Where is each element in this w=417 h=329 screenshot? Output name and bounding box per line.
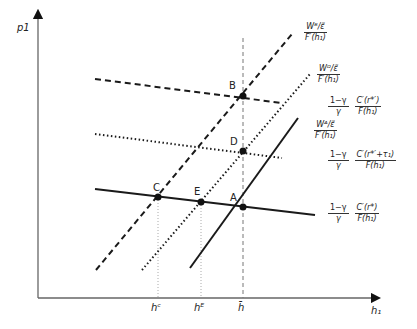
wage-curve-a: [190, 118, 298, 268]
cost-curve-b: [95, 79, 282, 103]
x-axis-label: h₁: [371, 305, 381, 316]
label-cost-b: 1−γγ C′(r*′)F(h₁): [328, 96, 381, 117]
label-cost-a: 1−γγ C′(r*)F(h₁): [328, 203, 379, 224]
wage-curve-d: [142, 74, 310, 270]
point-b: [240, 93, 247, 100]
wage-curve-b: [96, 34, 292, 270]
point-label-c: C: [153, 182, 160, 193]
label-wage-a: Wᴬ/ε̃F′(h₁): [313, 120, 338, 141]
point-c: [155, 194, 162, 201]
cost-curve-a: [95, 189, 315, 215]
point-a: [240, 204, 247, 211]
cost-curve-d: [95, 134, 282, 158]
point-label-a: A: [230, 192, 237, 203]
point-d: [240, 148, 247, 155]
x-tick-hc: hᶜ: [151, 302, 161, 313]
label-wage-d: Wᴰ/ε̃F′(h₁): [316, 64, 341, 85]
x-tick-hbar: h̄: [238, 302, 244, 313]
y-axis-label: p1: [17, 22, 30, 33]
point-e: [198, 199, 205, 206]
label-wage-b: Wᴮ/ε̃F′(h₁): [303, 22, 328, 43]
point-label-d: D: [230, 136, 238, 147]
point-label-e: E: [194, 186, 200, 197]
point-label-b: B: [229, 80, 236, 91]
label-cost-d: 1−γγ C′(r*′+τ₁)F(h₁): [328, 150, 396, 171]
x-tick-he: hᴱ: [194, 302, 204, 313]
